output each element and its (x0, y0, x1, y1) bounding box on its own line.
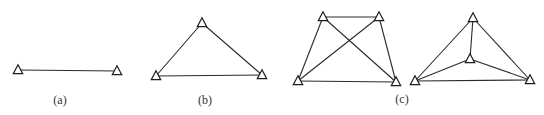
station-triangle-icon (257, 70, 266, 79)
baseline-edge (202, 23, 262, 75)
station-triangle-icon (293, 76, 302, 85)
station-triangle-icon (112, 66, 121, 75)
baseline-edge (473, 18, 530, 80)
panel-label-c: (c) (395, 92, 408, 107)
stations-layer (13, 12, 534, 86)
panel-c1-edges (298, 17, 396, 82)
station-triangle-icon (318, 12, 327, 21)
panel-b-edges (156, 23, 262, 76)
station-triangle-icon (468, 13, 477, 22)
station-triangle-icon (374, 12, 383, 21)
panel-a-edges (18, 70, 117, 71)
baseline-edge (415, 18, 473, 81)
baseline-edge (298, 81, 396, 82)
station-triangle-icon (13, 65, 22, 74)
station-triangle-icon (197, 18, 206, 27)
baseline-edge (470, 18, 473, 59)
network-diagram (0, 0, 544, 115)
panel-c2-edges (415, 18, 530, 81)
baseline-edge (18, 70, 117, 71)
baseline-edge (379, 17, 396, 82)
baseline-edge (415, 80, 530, 81)
station-triangle-icon (391, 77, 400, 86)
panel-label-a: (a) (53, 93, 66, 108)
panel-b-stations (151, 18, 266, 80)
panel-label-b: (b) (198, 93, 212, 108)
baseline-edge (156, 23, 202, 76)
panel-c1-stations (293, 12, 400, 86)
baseline-edge (156, 75, 262, 76)
station-triangle-icon (465, 54, 474, 63)
edges-layer (18, 17, 530, 82)
baseline-edge (323, 17, 396, 82)
baseline-edge (415, 59, 470, 81)
